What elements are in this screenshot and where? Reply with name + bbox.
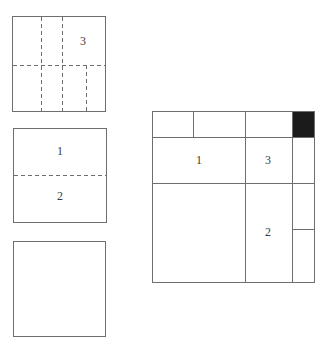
fraction-diagram-canvas: 3 1 2 1 3 2 — [0, 0, 328, 348]
dashed-vertical-line-2 — [62, 17, 63, 111]
horizontal-line-right-column — [292, 229, 314, 230]
dashed-vertical-line-1 — [41, 17, 42, 111]
region-label-2: 2 — [57, 190, 63, 202]
region-label-1: 1 — [57, 145, 63, 157]
horizontal-line-under-top-strip — [153, 137, 314, 138]
dashed-horizontal-midline — [14, 175, 106, 176]
composite-square: 1 3 2 — [152, 111, 315, 283]
region-label-1: 1 — [196, 154, 202, 166]
vertical-line-mid — [245, 112, 246, 282]
vertical-line-top-strip — [193, 112, 194, 137]
dashed-horizontal-midline — [13, 65, 105, 66]
region-label-3: 3 — [265, 154, 271, 166]
vertical-line-right-column — [292, 112, 293, 282]
shaded-cell — [292, 112, 314, 137]
region-label-2: 2 — [265, 226, 271, 238]
dashed-partition-square: 3 — [12, 16, 106, 112]
halved-square: 1 2 — [13, 128, 107, 223]
horizontal-line-mid — [153, 183, 314, 184]
region-label-3: 3 — [80, 35, 86, 47]
empty-square — [13, 241, 106, 337]
dashed-vertical-line-3-partial — [86, 65, 87, 111]
